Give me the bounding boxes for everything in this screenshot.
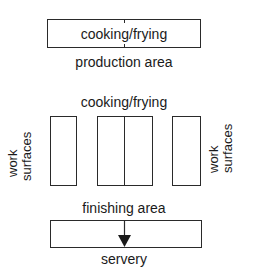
servery-caption: servery (47, 252, 201, 266)
down-arrow-icon (0, 0, 267, 276)
